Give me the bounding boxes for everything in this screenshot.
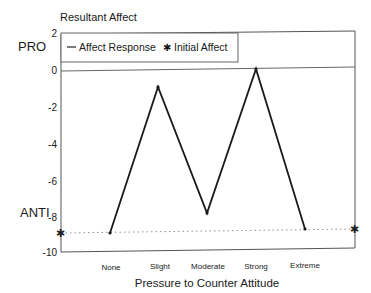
affect-response-line: [110, 69, 305, 233]
initial-affect-marker-left: ✱: [56, 227, 65, 239]
pro-label: PRO: [18, 39, 46, 54]
chart: Resultant Affect PRO ANTI 2 0 -2 -4 -6 -…: [0, 0, 371, 293]
svg-text:-4: -4: [48, 139, 57, 150]
svg-text:-10: -10: [43, 247, 58, 258]
legend: Affect Response ✱ Initial Affect: [61, 33, 238, 62]
asterisk-icon: ✱: [163, 42, 171, 53]
svg-text:Strong: Strong: [244, 262, 268, 271]
svg-text:Slight: Slight: [150, 262, 171, 271]
x-tick-labels: None Slight Moderate Strong Extreme: [101, 261, 320, 272]
plot-area: [61, 31, 355, 252]
svg-text:-8: -8: [48, 212, 57, 223]
svg-text:None: None: [101, 263, 121, 272]
svg-text:Moderate: Moderate: [191, 262, 225, 271]
svg-text:-2: -2: [48, 102, 57, 113]
svg-text:Extreme: Extreme: [290, 261, 320, 270]
y-tick-labels: 2 0 -2 -4 -6 -8 -10: [43, 28, 58, 258]
svg-text:2: 2: [51, 28, 57, 39]
svg-text:0: 0: [51, 65, 57, 76]
legend-initial-affect: Initial Affect: [174, 41, 228, 53]
anti-label: ANTI: [20, 205, 50, 220]
x-axis-label: Pressure to Counter Attitude: [135, 277, 279, 289]
legend-affect-response: Affect Response: [79, 41, 156, 53]
zero-line: [61, 67, 355, 71]
svg-text:-6: -6: [48, 176, 57, 187]
initial-affect-line: [61, 229, 355, 233]
chart-title: Resultant Affect: [60, 11, 137, 23]
initial-affect-marker-right: ✱: [350, 223, 359, 235]
